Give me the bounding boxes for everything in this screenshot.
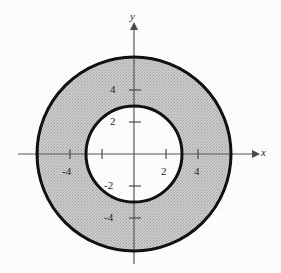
y-tick-label-4: 4 (110, 84, 116, 95)
math-figure-annulus: y x -4 2 4 4 2 -2 -4 (0, 0, 281, 273)
y-tick-label-neg4: -4 (104, 212, 113, 223)
shaded-annulus-region (0, 0, 281, 273)
plot-canvas (0, 0, 281, 273)
y-tick-label-2: 2 (110, 116, 116, 127)
x-tick-label-2: 2 (161, 166, 167, 177)
x-tick-label-4: 4 (194, 166, 200, 177)
x-tick-label-neg4: -4 (62, 166, 71, 177)
y-tick-label-neg2: -2 (104, 180, 113, 191)
x-axis-label: x (261, 147, 266, 158)
y-axis-label: y (130, 11, 135, 22)
